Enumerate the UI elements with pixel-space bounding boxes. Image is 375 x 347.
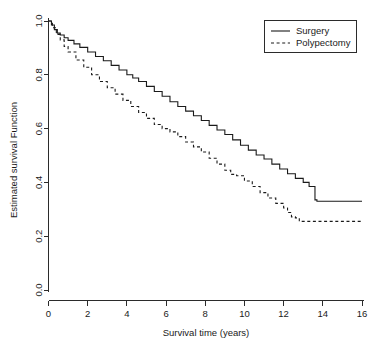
x-tick-label: 0: [46, 308, 51, 319]
y-tick-label: 0.8: [33, 68, 44, 81]
plot-axes: [49, 18, 365, 301]
y-tick-label: 0.4: [33, 176, 44, 189]
legend-item-label-surgery: Surgery: [296, 25, 330, 36]
x-axis-ticks: 0246810121416: [46, 301, 367, 320]
survival-curve-figure: 0.00.20.40.60.81.0 0246810121416 Surviva…: [0, 0, 375, 347]
x-tick-label: 4: [124, 308, 129, 319]
y-tick-label: 0.2: [33, 230, 44, 243]
y-tick-label: 0.6: [33, 122, 44, 135]
x-tick-label: 12: [278, 308, 289, 319]
x-axis-title: Survival time (years): [163, 327, 250, 338]
y-tick-label: 0.0: [33, 283, 44, 296]
y-axis-title: Estimated survival Function: [8, 102, 19, 218]
x-tick-label: 8: [203, 308, 208, 319]
x-tick-label: 6: [163, 308, 168, 319]
x-tick-label: 16: [357, 308, 368, 319]
y-axis-ticks: 0.00.20.40.60.81.0: [33, 14, 49, 296]
y-tick-label: 1.0: [33, 14, 44, 27]
chart-legend[interactable]: Surgery Polypectomy: [265, 21, 357, 53]
legend-item-label-polypectomy: Polypectomy: [296, 37, 351, 48]
x-tick-label: 2: [85, 308, 90, 319]
x-tick-label: 14: [318, 308, 329, 319]
survival-plot: 0.00.20.40.60.81.0 0246810121416 Surviva…: [0, 0, 375, 347]
x-tick-label: 10: [239, 308, 250, 319]
